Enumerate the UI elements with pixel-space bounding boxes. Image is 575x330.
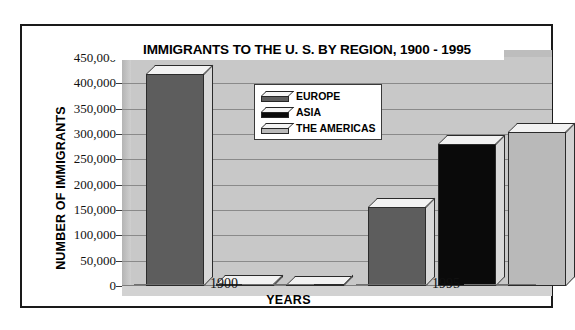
y-tick-label: 100,000 xyxy=(54,227,116,243)
legend-label-europe: EUROPE xyxy=(296,90,340,102)
bar-top-face xyxy=(508,123,575,132)
y-tick-label: 200,000 xyxy=(54,177,116,193)
y-tick-label: 250,000 xyxy=(54,151,116,167)
bar-europe-1995 xyxy=(368,207,426,286)
legend-swatch-europe xyxy=(261,91,289,102)
category-rule-right xyxy=(242,284,314,285)
bar-top-face xyxy=(438,135,505,144)
y-tick-label: 150,000 xyxy=(54,202,116,218)
legend-label-americas: THE AMERICAS xyxy=(296,122,376,134)
x-category-1900: 1900 xyxy=(134,276,314,292)
bar-front-face xyxy=(508,132,566,286)
category-rule-left xyxy=(134,284,206,285)
bar-front-face xyxy=(368,207,426,286)
x-tick-label: 1900 xyxy=(206,276,242,292)
bar-side-face xyxy=(566,123,575,286)
legend-swatch-asia xyxy=(261,107,289,118)
bar-side-face xyxy=(496,135,505,286)
category-rule-left xyxy=(356,284,428,285)
bar-front-face xyxy=(438,144,496,286)
x-category-1995: 1995 xyxy=(356,276,536,292)
y-axis-tick-labels: 450,000400,000350,000300,000250,000200,0… xyxy=(50,26,116,310)
bar-side-face xyxy=(426,198,435,286)
y-tick-label: 0 xyxy=(54,278,116,294)
bar-europe-1900 xyxy=(146,74,204,286)
y-tick-label: 350,000 xyxy=(54,101,116,117)
bar-side-face xyxy=(204,65,213,286)
x-tick-label: 1995 xyxy=(428,276,464,292)
legend-swatch-americas xyxy=(261,123,289,134)
legend-item-americas: THE AMERICAS xyxy=(261,120,376,136)
category-rule-right xyxy=(464,284,536,285)
x-axis-title: YEARS xyxy=(22,293,555,307)
y-tick-label: 450,000 xyxy=(54,50,116,66)
bar-front-face xyxy=(146,74,204,286)
bar-asia-1995 xyxy=(438,144,496,286)
legend-label-asia: ASIA xyxy=(296,106,321,118)
bar-america-1995 xyxy=(508,132,566,286)
legend-item-europe: EUROPE xyxy=(261,88,340,104)
chart-title: IMMIGRANTS TO THE U. S. BY REGION, 1900 … xyxy=(110,40,504,60)
y-tick-label: 300,000 xyxy=(54,126,116,142)
legend-item-asia: ASIA xyxy=(261,104,321,120)
plot-left-wall xyxy=(122,50,131,296)
y-tick-label: 400,000 xyxy=(54,75,116,91)
chart-legend: EUROPE ASIA THE AMERICAS xyxy=(254,84,382,140)
y-tick-label: 50,000 xyxy=(54,253,116,269)
chart-frame: IMMIGRANTS TO THE U. S. BY REGION, 1900 … xyxy=(20,24,553,308)
